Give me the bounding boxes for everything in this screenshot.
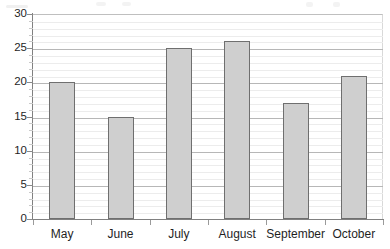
- x-axis-label: July: [150, 227, 208, 241]
- bars: [33, 14, 383, 219]
- x-axis-tick: [150, 220, 151, 225]
- y-axis-label: 0: [1, 213, 27, 225]
- bar: [166, 48, 192, 219]
- scan-smudge: [96, 2, 106, 6]
- x-axis-tick: [325, 220, 326, 225]
- x-axis-tick: [383, 220, 384, 225]
- x-axis-label: October: [325, 227, 383, 241]
- y-axis-label: 20: [1, 76, 27, 88]
- x-axis-label: August: [208, 227, 266, 241]
- x-axis-tick: [33, 220, 34, 225]
- bar: [49, 82, 75, 219]
- bar: [341, 76, 367, 220]
- x-axis-label: June: [91, 227, 149, 241]
- scan-smudge: [122, 2, 131, 6]
- y-axis-label: 15: [1, 111, 27, 123]
- x-axis-label: May: [33, 227, 91, 241]
- scan-smudge: [333, 2, 340, 7]
- y-axis-label: 30: [1, 8, 27, 20]
- bar: [108, 117, 134, 220]
- y-axis-label: 10: [1, 145, 27, 157]
- x-axis-label: September: [266, 227, 324, 241]
- scan-artifact-strip: [0, 0, 390, 11]
- bar: [224, 41, 250, 219]
- scan-smudge: [306, 2, 313, 7]
- x-axis-tick: [266, 220, 267, 225]
- y-axis-label: 25: [1, 42, 27, 54]
- bar: [283, 103, 309, 219]
- y-axis-label: 5: [1, 179, 27, 191]
- x-axis-tick: [208, 220, 209, 225]
- bar-chart: 051015202530 MayJuneJulyAugustSeptemberO…: [0, 0, 390, 249]
- x-axis-tick: [91, 220, 92, 225]
